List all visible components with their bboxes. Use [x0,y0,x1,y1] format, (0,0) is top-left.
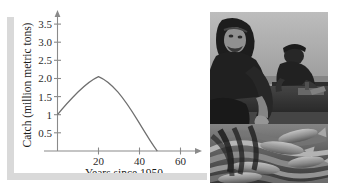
y-axis-tick-labels: 3.5 3.0 2.5 2.0 1.5 1 0.5 [38,18,52,139]
catch-vs-years-chart: 3.5 3.0 2.5 2.0 1.5 1 0.5 20 40 60 [14,5,206,173]
x-tick-label: 20 [93,155,105,167]
y-tick-label: 1 [47,109,53,121]
photo-illustration [210,12,328,183]
y-tick-label: 0.5 [38,127,52,139]
x-tick-label: 40 [134,155,146,167]
figure-root: 3.5 3.0 2.5 2.0 1.5 1 0.5 20 40 60 [0,0,338,195]
chart-svg: 3.5 3.0 2.5 2.0 1.5 1 0.5 20 40 60 [14,5,206,173]
y-tick-label: 2.5 [38,54,52,66]
x-axis-title: Years since 1950 [85,167,163,173]
catch-curve [58,77,158,151]
y-axis-arrowhead [55,10,61,17]
x-tick-label: 60 [175,155,187,167]
y-axis [55,10,61,151]
y-tick-label: 3.5 [38,18,52,30]
photo-vignette [210,12,328,183]
x-axis [44,148,202,154]
x-axis-arrowhead [195,148,202,154]
x-axis-tick-labels: 20 40 60 [93,155,187,167]
y-axis-title: Catch (million metric tons) [21,22,34,147]
photo-inner [210,12,328,183]
frame-left-bar [7,17,14,173]
y-tick-label: 3.0 [38,36,52,48]
y-tick-label: 1.5 [38,91,52,103]
fishing-boat-photo [207,9,331,186]
y-tick-label: 2.0 [38,72,52,84]
